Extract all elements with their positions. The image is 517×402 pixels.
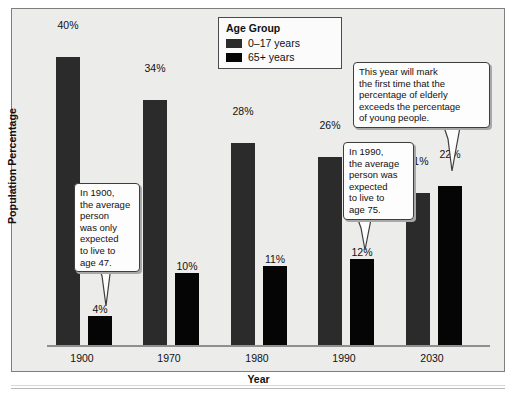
page-rule-upper (11, 385, 505, 386)
callout-1990-line-5: to live to (349, 192, 408, 204)
callout-1900-line-3: person (80, 210, 134, 222)
bar-1990-young[interactable] (318, 157, 342, 345)
bar-label-1980-young: 28% (232, 105, 253, 117)
callout-2030-tail (438, 125, 498, 195)
x-tick-2030: 2030 (392, 352, 472, 364)
x-tick-1970: 1970 (129, 352, 209, 364)
legend-label-young: 0–17 years (248, 37, 300, 49)
callout-2030-line-2: the first time that the (359, 78, 484, 90)
callout-1900: In 1900, the average person was only exp… (74, 183, 140, 272)
bar-label-1980-old: 11% (265, 253, 285, 265)
callout-2030-line-1: This year will mark (359, 66, 484, 78)
y-axis-label: Population Percentage (6, 64, 18, 224)
callout-2030-line-5: of young people. (359, 112, 484, 124)
legend-label-old: 65+ years (248, 51, 294, 63)
callout-1990: In 1990, the average person was expected… (343, 142, 414, 220)
bar-2030-old[interactable] (438, 186, 462, 345)
bar-label-1990-young: 26% (319, 119, 340, 131)
callout-1990-line-6: age 75. (349, 204, 408, 216)
callout-1990-tail (348, 212, 408, 272)
legend-item-young[interactable]: 0–17 years (226, 37, 334, 49)
callout-2030-line-4: exceeds the percentage (359, 101, 484, 113)
callout-1990-line-3: person was (349, 169, 408, 181)
x-tick-1980: 1980 (217, 352, 297, 364)
callout-1900-line-1: In 1900, (80, 187, 134, 199)
y-axis-label-wrap: Population Percentage (22, 120, 36, 300)
callout-1900-line-2: the average (80, 199, 134, 211)
x-axis-line (47, 345, 490, 347)
legend: Age Group 0–17 years 65+ years (218, 17, 342, 69)
callout-2030: This year will mark the first time that … (353, 62, 490, 128)
callout-2030-line-3: percentage of elderly (359, 89, 484, 101)
bar-label-1900-young: 40% (57, 19, 78, 31)
x-tick-1990: 1990 (304, 352, 384, 364)
callout-1990-line-1: In 1990, (349, 146, 408, 158)
callout-1900-line-6: to live to (80, 245, 134, 257)
x-axis-label: Year (0, 373, 517, 385)
bar-1970-old[interactable] (175, 273, 199, 345)
bar-1970-young[interactable] (143, 100, 167, 345)
legend-title: Age Group (226, 22, 334, 34)
callout-1900-line-5: expected (80, 233, 134, 245)
bar-1900-old[interactable] (88, 316, 112, 345)
x-tick-1900: 1900 (42, 352, 122, 364)
chart-figure: Population Percentage 40% 4% 34% 10% 28%… (0, 0, 517, 402)
bar-1980-young[interactable] (231, 143, 255, 345)
bar-1980-old[interactable] (263, 266, 287, 345)
callout-1900-line-4: was only (80, 222, 134, 234)
bar-label-1970-old: 10% (176, 260, 197, 272)
legend-item-old[interactable]: 65+ years (226, 51, 334, 63)
legend-swatch-icon-old (226, 53, 242, 62)
legend-swatch-icon-young (226, 39, 242, 48)
callout-1990-line-4: expected (349, 181, 408, 193)
bar-label-1970-young: 34% (144, 62, 165, 74)
callout-1900-line-7: age 47. (80, 257, 134, 269)
callout-1990-line-2: the average (349, 158, 408, 170)
page-rule-lower (11, 388, 505, 389)
